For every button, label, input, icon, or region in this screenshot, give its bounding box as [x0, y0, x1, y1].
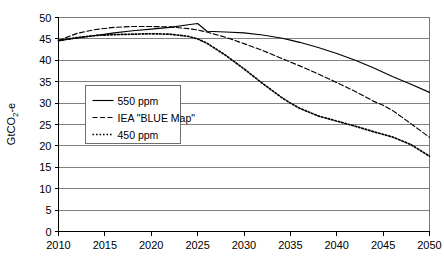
y-axis-label-text: GtCO2-e — [5, 103, 20, 145]
y-tick-label-5: 5 — [45, 204, 51, 216]
x-tick-label-2050: 2050 — [417, 239, 441, 251]
chart-figure: 0510152025303540455020102015202020252030… — [0, 0, 444, 264]
x-tick-label-2035: 2035 — [278, 239, 302, 251]
x-tick-label-2010: 2010 — [46, 239, 70, 251]
legend-label-2: 450 ppm — [118, 129, 159, 141]
y-tick-label-10: 10 — [39, 183, 51, 195]
y-tick-label-25: 25 — [39, 119, 51, 131]
y-tick-label-0: 0 — [45, 226, 51, 238]
line-chart: 0510152025303540455020102015202020252030… — [0, 0, 444, 264]
x-tick-label-2025: 2025 — [185, 239, 209, 251]
y-axis-label: GtCO2-e — [5, 103, 20, 145]
y-tick-label-40: 40 — [39, 54, 51, 66]
x-tick-label-2040: 2040 — [325, 239, 349, 251]
x-tick-label-2020: 2020 — [139, 239, 163, 251]
y-tick-label-35: 35 — [39, 76, 51, 88]
legend-label-0: 550 ppm — [118, 95, 159, 107]
x-tick-label-2045: 2045 — [371, 239, 395, 251]
x-tick-label-2015: 2015 — [93, 239, 117, 251]
x-tick-label-2030: 2030 — [232, 239, 256, 251]
legend-label-1: IEA "BLUE Map" — [118, 112, 196, 124]
y-tick-label-50: 50 — [39, 12, 51, 24]
y-tick-label-20: 20 — [39, 140, 51, 152]
y-tick-label-30: 30 — [39, 97, 51, 109]
legend: 550 ppmIEA "BLUE Map"450 ppm — [86, 86, 196, 144]
y-tick-label-45: 45 — [39, 33, 51, 45]
y-tick-label-15: 15 — [39, 161, 51, 173]
